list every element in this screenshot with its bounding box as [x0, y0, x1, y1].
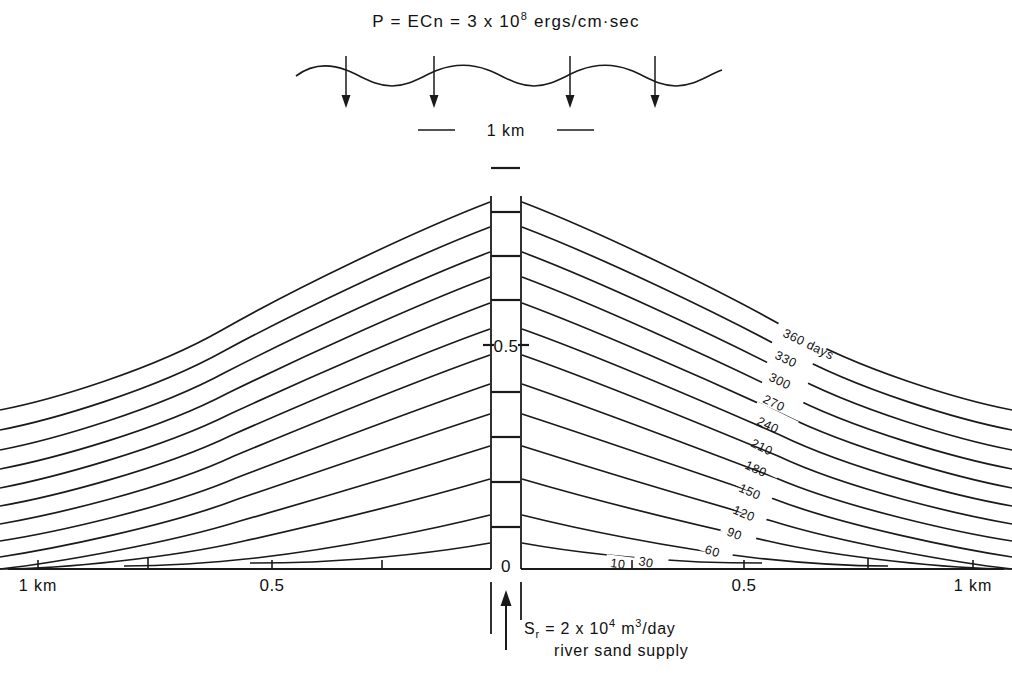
contour-270-left	[0, 277, 490, 469]
river-supply-arrow	[501, 590, 512, 650]
river-exponent: 4	[609, 617, 616, 629]
power-formula-suffix: ergs/cm·sec	[528, 12, 640, 31]
river-unit-suffix: /day	[642, 620, 675, 637]
contour-330-left	[0, 227, 490, 430]
wave-arrow-2	[430, 56, 439, 108]
contour-label-60: 60	[703, 542, 721, 560]
figure-canvas: P = ECn = 3 x 108 ergs/cm·sec	[0, 0, 1012, 677]
contour-240-left	[0, 303, 490, 488]
contour-60-left	[0, 479, 490, 569]
x-label-right-mid: 0.5	[731, 576, 756, 595]
river-unit-exponent: 3	[635, 617, 642, 629]
x-label-left-outer: 1 km	[19, 577, 58, 594]
river-unit-prefix: m	[616, 620, 635, 637]
river-supply-caption-line2: river sand supply	[554, 642, 689, 659]
wave-energy-arrows	[342, 56, 660, 108]
contour-120-left	[0, 414, 490, 557]
x-label-left-mid: 0.5	[259, 576, 284, 595]
contour-300-left	[0, 252, 490, 450]
vertical-axis-zero-label: 0	[501, 557, 511, 576]
river-symbol: S	[524, 620, 535, 637]
x-label-right-outer: 1 km	[954, 577, 993, 594]
wave-arrow-1	[342, 56, 351, 108]
contour-210-left	[0, 329, 490, 506]
wave-scale-label: 1 km	[487, 122, 526, 139]
contours-left	[0, 202, 490, 569]
wave-line	[296, 66, 722, 87]
wave-arrow-3	[566, 56, 575, 108]
contour-90-left	[0, 446, 490, 569]
contour-10-left	[250, 543, 490, 563]
power-formula-exponent: 8	[521, 10, 528, 22]
vertical-axis-mid-label: 0.5	[493, 337, 518, 356]
power-formula: P = ECn = 3 x 108 ergs/cm·sec	[372, 10, 639, 31]
wave-scale-bar: 1 km	[418, 122, 594, 139]
power-formula-prefix: P = ECn = 3 x 10	[372, 12, 520, 31]
river-prefix: = 2 x 10	[540, 620, 609, 637]
river-supply-formula: Sr = 2 x 104 m3/day	[524, 617, 676, 640]
contour-30-left	[124, 515, 490, 566]
